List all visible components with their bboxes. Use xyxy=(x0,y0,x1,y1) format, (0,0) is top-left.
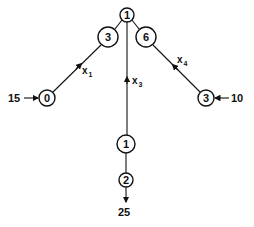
flow-in-10: 10 xyxy=(231,92,243,104)
node-bottom: 2 xyxy=(119,173,133,187)
diagram-svg: 1 3 6 0 3 1 2 15 10 25 x1 xyxy=(0,0,254,227)
node-label: 0 xyxy=(44,92,50,104)
var-x3: x3 xyxy=(132,75,143,88)
node-left: 0 xyxy=(39,90,55,106)
node-upper-right: 6 xyxy=(136,27,156,47)
edge-top-upperleft xyxy=(115,20,122,29)
node-label: 3 xyxy=(105,31,111,43)
node-label: 1 xyxy=(123,138,129,150)
network-diagram: 1 3 6 0 3 1 2 15 10 25 x1 xyxy=(0,0,254,227)
node-label: 1 xyxy=(124,9,130,21)
node-label: 6 xyxy=(143,31,149,43)
node-label: 2 xyxy=(123,174,129,186)
node-upper-left: 3 xyxy=(98,27,118,47)
node-right: 3 xyxy=(198,90,214,106)
edge-top-upperright xyxy=(132,20,139,29)
var-x1: x1 xyxy=(82,65,93,78)
flow-out-25: 25 xyxy=(118,206,130,218)
node-top: 1 xyxy=(120,8,134,22)
node-label: 3 xyxy=(203,92,209,104)
flow-in-15: 15 xyxy=(8,92,20,104)
var-x4: x4 xyxy=(177,54,188,67)
node-lower-mid: 1 xyxy=(117,135,135,153)
